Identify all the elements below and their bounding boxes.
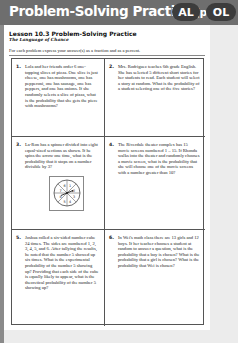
svg-text:6: 6 <box>63 184 65 188</box>
problem-number: 4. <box>109 142 115 226</box>
badge-al: AL <box>172 3 200 21</box>
problem-text: In Wei's math class there are 13 girls a… <box>118 235 200 323</box>
svg-text:3: 3 <box>72 195 74 199</box>
problem-number: 1. <box>16 64 22 133</box>
svg-text:1: 1 <box>68 184 70 188</box>
page-header: Problem-Solving Practice (p. 31) AL OL <box>0 0 238 25</box>
problem-text: The Riverdale theater complex has 15 mov… <box>118 142 200 226</box>
problem-6: 6. In Wei's math class there are 13 girl… <box>105 230 205 326</box>
problem-3: 3. La-Ron has a spinner divided into eig… <box>12 137 105 230</box>
problem-1: 1. Lola and her friends order 6 one-topp… <box>12 59 105 137</box>
problem-text: Mrs. Rodriguez teaches 6th grade English… <box>118 64 200 133</box>
problem-4: 4. The Riverdale theater complex has 15 … <box>105 137 205 230</box>
spinner-icon: 6 1 7 2 8 3 5 4 <box>52 178 82 208</box>
problem-number: 2. <box>109 64 115 133</box>
problem-body: La-Ron has a spinner divided into eight … <box>25 142 99 226</box>
problem-grid: 1. Lola and her friends order 6 one-topp… <box>11 58 204 325</box>
problem-number: 6. <box>109 235 115 323</box>
svg-text:5: 5 <box>63 200 65 204</box>
badge-ol: OL <box>206 3 236 21</box>
svg-text:4: 4 <box>68 200 70 204</box>
problem-number: 3. <box>16 142 22 226</box>
spinner-diagram: 6 1 7 2 8 3 5 4 <box>49 176 84 211</box>
lesson-subtitle: The Language of Chance <box>9 37 69 42</box>
divider <box>9 55 205 56</box>
header-title-text: Problem-Solving Practice <box>9 3 191 19</box>
svg-text:7: 7 <box>59 189 61 193</box>
problem-text: La-Ron has a spinner divided into eight … <box>25 142 99 170</box>
problem-number: 5. <box>16 235 22 323</box>
problem-text: Lola and her friends order 6 one-topping… <box>25 64 99 133</box>
problem-text: Joshua rolled a six-sided number cube 24… <box>25 235 99 323</box>
instructions: For each problem express your answer(s) … <box>9 48 140 53</box>
problem-5: 5. Joshua rolled a six-sided number cube… <box>12 230 105 326</box>
lesson-title: Lesson 10.3 Problem-Solving Practice <box>9 30 137 37</box>
problem-2: 2. Mrs. Rodriguez teaches 6th grade Engl… <box>105 59 205 137</box>
